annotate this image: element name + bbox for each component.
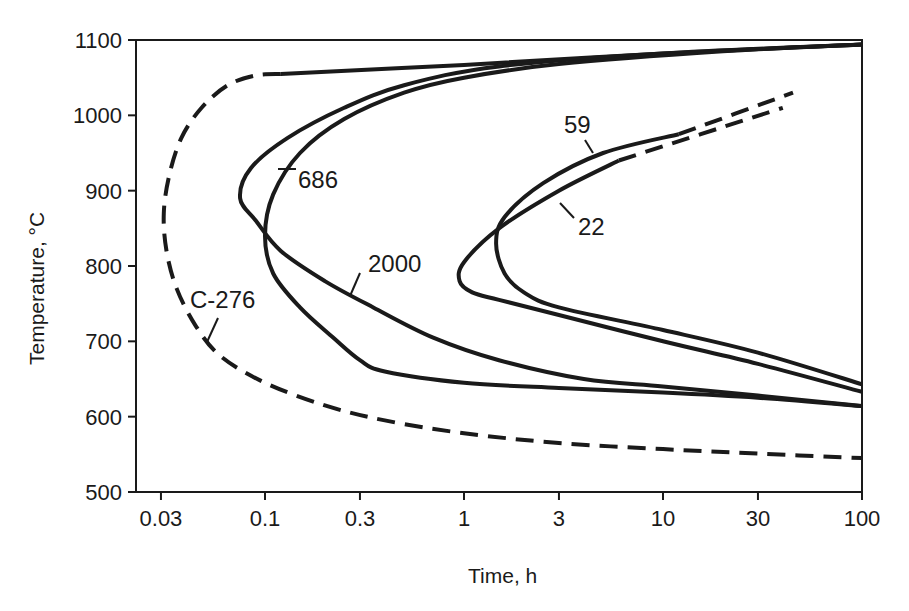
label-c276: C-276: [190, 286, 255, 313]
x-tick-label: 10: [651, 506, 675, 531]
x-axis-title: Time, h: [468, 564, 537, 587]
chart-canvas: 50060070080090010001100 0.030.10.3131030…: [0, 0, 909, 611]
x-tick-label: 30: [746, 506, 770, 531]
label-686: 686: [298, 166, 338, 193]
curve-2000: [240, 45, 862, 407]
y-tick-label: 900: [85, 179, 122, 204]
leader-c276: [207, 318, 218, 342]
leader-2000: [350, 273, 360, 296]
x-tick-label: 100: [844, 506, 881, 531]
curve-22: [459, 161, 862, 392]
label-22: 22: [578, 213, 605, 240]
leader-22: [560, 203, 574, 218]
y-tick-label: 800: [85, 254, 122, 279]
y-tick-label: 1100: [75, 28, 122, 53]
y-tick-label: 1000: [73, 103, 122, 128]
x-tick-label: 1: [458, 506, 470, 531]
label-2000: 2000: [368, 250, 421, 277]
curve-59-dashed-tail: [679, 93, 793, 135]
x-tick-label: 3: [553, 506, 565, 531]
x-tick-label: 0.03: [140, 506, 183, 531]
y-tick-label: 500: [85, 480, 122, 505]
label-59: 59: [564, 111, 591, 138]
ttt-chart: 50060070080090010001100 0.030.10.3131030…: [0, 0, 909, 611]
y-axis: 50060070080090010001100: [73, 28, 136, 505]
y-tick-label: 600: [85, 405, 122, 430]
leader-59: [585, 140, 593, 153]
x-tick-label: 0.1: [250, 506, 281, 531]
curves: [164, 45, 862, 459]
curve-annotations: 686 2000 59 22 C-276: [190, 111, 605, 342]
curve-22-dashed-tail: [619, 108, 783, 161]
y-axis-title: Temperature, °C: [25, 212, 48, 365]
x-tick-label: 0.3: [345, 506, 376, 531]
y-tick-label: 700: [85, 329, 122, 354]
x-axis: 0.030.10.3131030100: [140, 492, 881, 531]
